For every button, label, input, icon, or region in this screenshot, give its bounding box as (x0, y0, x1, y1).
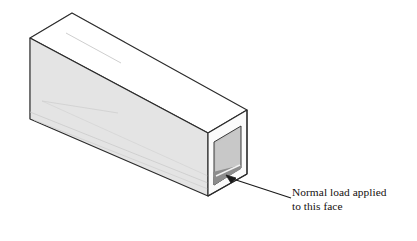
normal-load-callout-label: Normal load applied to this face (292, 186, 416, 213)
callout-line-2: to this face (292, 200, 416, 214)
callout-line-1: Normal load applied (292, 186, 416, 200)
figure-container: Normal load applied to this face (0, 0, 417, 241)
callout-leader-line (233, 179, 291, 198)
